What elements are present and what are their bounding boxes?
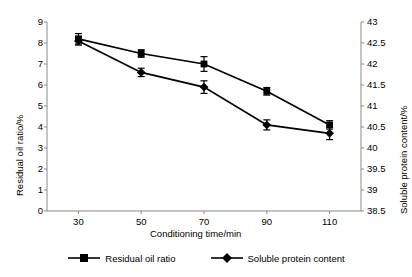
legend-label-soluble-protein-content: Soluble protein content (248, 253, 345, 264)
y-tick-label-left: 3 (18, 142, 43, 153)
legend-item-residual-oil-ratio: Residual oil ratio (67, 252, 175, 264)
y-axis-title-right: Soluble protein content/% (398, 106, 409, 214)
y-tick-label-left: 8 (18, 37, 43, 48)
x-tick-label: 110 (310, 216, 350, 227)
x-tick-label: 30 (58, 216, 98, 227)
plot-area (0, 0, 412, 250)
chart-legend: Residual oil ratio Soluble protein conte… (0, 252, 412, 264)
y-tick-label-left: 9 (18, 16, 43, 27)
y-tick-label-right: 39.5 (367, 163, 386, 174)
y-tick-label-right: 41.5 (367, 79, 386, 90)
y-tick-label-left: 6 (18, 79, 43, 90)
y-tick-label-left: 4 (18, 121, 43, 132)
y-tick-label-right: 42 (367, 58, 378, 69)
chart-container: Residual oil ratio/% Soluble protein con… (0, 0, 412, 277)
x-tick-label: 50 (121, 216, 161, 227)
data-point-marker-diamond (200, 83, 209, 92)
legend-item-soluble-protein-content: Soluble protein content (210, 252, 345, 264)
x-tick-label: 70 (184, 216, 224, 227)
x-tick-label: 90 (247, 216, 287, 227)
y-tick-label-left: 2 (18, 163, 43, 174)
y-tick-label-left: 0 (18, 205, 43, 216)
y-tick-label-right: 38.5 (367, 205, 386, 216)
y-tick-label-right: 42.5 (367, 37, 386, 48)
y-tick-label-left: 5 (18, 100, 43, 111)
y-tick-label-left: 1 (18, 184, 43, 195)
data-point-marker-diamond (325, 129, 334, 138)
x-axis-title: Conditioning time/min (150, 228, 241, 239)
y-tick-label-right: 40 (367, 142, 378, 153)
y-tick-label-right: 41 (367, 100, 378, 111)
y-tick-label-left: 7 (18, 58, 43, 69)
data-point-marker-diamond (137, 68, 146, 77)
y-tick-label-right: 40.5 (367, 121, 386, 132)
legend-label-residual-oil-ratio: Residual oil ratio (105, 253, 175, 264)
data-point-marker-square (201, 61, 208, 68)
y-tick-label-right: 43 (367, 16, 378, 27)
legend-square-marker-icon (67, 252, 101, 264)
data-point-marker-square (138, 50, 145, 57)
legend-diamond-marker-icon (210, 252, 244, 264)
data-point-marker-square (263, 88, 270, 95)
data-point-marker-diamond (262, 121, 271, 130)
y-tick-label-right: 39 (367, 184, 378, 195)
